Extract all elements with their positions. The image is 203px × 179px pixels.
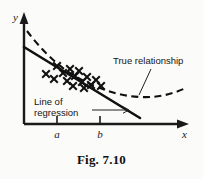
data-marker bbox=[50, 75, 58, 83]
data-marker bbox=[66, 65, 74, 73]
x-axis-ticks: a b bbox=[54, 116, 103, 140]
x-axis-label: x bbox=[181, 128, 187, 140]
y-axis-arrowhead bbox=[20, 12, 29, 24]
data-marker bbox=[42, 70, 50, 78]
tick-label-a: a bbox=[54, 128, 60, 140]
scatter-markers-group bbox=[42, 62, 105, 92]
true-relationship-annotation: True relationship bbox=[113, 55, 183, 95]
y-axis-label: y bbox=[12, 11, 18, 23]
line-of-regression-annotation: Line of regression bbox=[34, 96, 129, 118]
true-relationship-pointer bbox=[139, 69, 151, 95]
true-relationship-label: True relationship bbox=[113, 55, 183, 66]
line-of-regression-label-line1: Line of bbox=[34, 96, 63, 107]
data-marker bbox=[75, 67, 83, 75]
data-marker bbox=[69, 82, 77, 90]
figure-caption: Fig. 7.10 bbox=[0, 152, 203, 168]
tick-label-b: b bbox=[97, 128, 103, 140]
line-of-regression-label-line2: regression bbox=[34, 107, 78, 118]
data-marker bbox=[83, 73, 91, 81]
figure-container: y x a b bbox=[0, 0, 203, 179]
